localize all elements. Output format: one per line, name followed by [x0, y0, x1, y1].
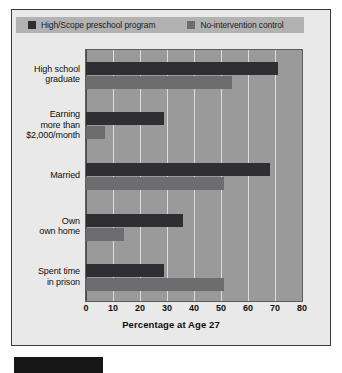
x-tick-label-0: 0	[74, 303, 98, 313]
caption-bar-fragment	[14, 357, 103, 373]
category-label-line: own home	[8, 226, 80, 237]
category-label-4: Spent timein prison	[8, 266, 80, 287]
x-tick-label-10: 10	[101, 303, 125, 313]
category-label-line: High school	[8, 64, 80, 75]
x-axis-ticks: 01020304050607080	[85, 303, 303, 317]
plot-wrapper	[85, 49, 303, 302]
legend-label-program: High/Scope preschool program	[41, 20, 155, 30]
legend-entry-program: High/Scope preschool program	[28, 20, 155, 30]
category-label-line: Married	[8, 170, 80, 181]
plot-area	[85, 49, 303, 302]
chart-figure: High/Scope preschool program No-interven…	[0, 0, 342, 373]
category-label-3: Ownown home	[8, 216, 80, 237]
x-tick-label-40: 40	[182, 303, 206, 313]
legend-swatch-program	[28, 21, 36, 29]
x-tick-label-50: 50	[209, 303, 233, 313]
category-label-2: Married	[8, 170, 80, 181]
x-tick-label-70: 70	[263, 303, 287, 313]
legend-label-control: No-intervention control	[200, 20, 283, 30]
x-tick-label-60: 60	[236, 303, 260, 313]
bar-program-4	[86, 264, 164, 277]
bar-control-0	[86, 76, 232, 89]
x-axis-title: Percentage at Age 27	[11, 319, 331, 330]
x-tick-label-20: 20	[128, 303, 152, 313]
chart-legend: High/Scope preschool program No-interven…	[16, 17, 304, 33]
bar-program-1	[86, 112, 164, 125]
bar-control-3	[86, 228, 124, 241]
category-label-1: Earningmore than$2,000/month	[8, 109, 80, 141]
bar-control-1	[86, 126, 105, 139]
category-label-line: Spent time	[8, 266, 80, 277]
category-label-line: $2,000/month	[8, 130, 80, 141]
bar-control-2	[86, 177, 224, 190]
legend-entry-control: No-intervention control	[187, 20, 283, 30]
category-label-line: more than	[8, 120, 80, 131]
category-label-line: in prison	[8, 277, 80, 288]
x-tick-label-80: 80	[290, 303, 314, 313]
bar-program-3	[86, 214, 183, 227]
bar-program-2	[86, 163, 270, 176]
bar-program-0	[86, 62, 278, 75]
gridline-80	[302, 50, 303, 301]
category-label-line: Earning	[8, 109, 80, 120]
category-label-line: graduate	[8, 74, 80, 85]
legend-swatch-control	[187, 21, 195, 29]
x-tick-label-30: 30	[155, 303, 179, 313]
gridline-70	[275, 50, 276, 301]
bar-control-4	[86, 278, 224, 291]
category-label-column: High schoolgraduateEarningmore than$2,00…	[8, 49, 80, 302]
category-label-0: High schoolgraduate	[8, 64, 80, 85]
category-label-line: Own	[8, 216, 80, 227]
